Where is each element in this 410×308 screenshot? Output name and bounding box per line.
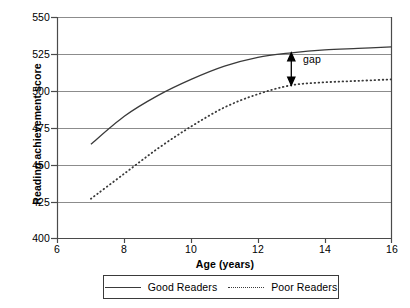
legend-swatch-dotted-line-icon <box>228 287 264 288</box>
series-line-poor-readers <box>91 79 392 198</box>
legend-label-good-readers: Good Readers <box>148 281 218 293</box>
reading-achievement-chart: Reading achievement score 550 525 500 47… <box>0 0 410 308</box>
legend-entry-good-readers: Good Readers <box>105 281 218 293</box>
y-axis-ticks <box>51 18 57 239</box>
legend-label-poor-readers: Poor Readers <box>271 281 337 293</box>
gridlines <box>57 18 392 203</box>
axis-lines <box>57 17 392 239</box>
gap-annotation-arrow <box>288 53 295 85</box>
chart-legend: Good Readers Poor Readers <box>103 275 339 299</box>
plot-area <box>0 0 410 308</box>
series-line-good-readers <box>91 47 392 144</box>
legend-swatch-solid-line-icon <box>105 287 141 288</box>
legend-entry-poor-readers: Poor Readers <box>228 281 337 293</box>
gap-annotation-label: gap <box>303 53 321 65</box>
